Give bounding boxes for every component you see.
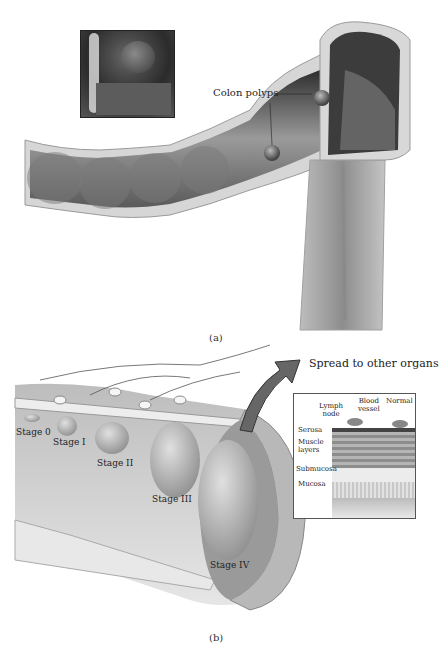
tumor-stage-1: [57, 416, 77, 436]
stage-1-label: Stage I: [53, 437, 86, 447]
stage-2-label: Stage II: [97, 458, 133, 468]
mucosa-layer: [332, 482, 415, 498]
mucosa-label: Mucosa: [298, 480, 326, 488]
wall-layers-inset: Lymph node Blood vessel Normal Serosa Mu…: [293, 393, 416, 519]
lymph-node-label: Lymph node: [319, 402, 343, 418]
blood-vessel-label: Blood vessel: [358, 397, 380, 413]
muscle-layers-label: Muscle layers: [298, 438, 328, 454]
inset-lumen: [332, 498, 415, 518]
spread-arrow-label: Spread to other organs: [309, 357, 439, 370]
tumor-stage-2: [95, 422, 129, 454]
normal-node-shape: [392, 420, 408, 428]
lymph-node-shape: [347, 418, 363, 426]
submucosa-label: Submucosa: [296, 465, 337, 473]
submucosa-layer: [332, 468, 415, 483]
muscle-layer: [332, 432, 415, 468]
tumor-stage-4: [198, 440, 258, 560]
stage-3-label: Stage III: [152, 494, 192, 504]
stage-0-label: Stage 0: [16, 427, 51, 437]
stage-4-label: Stage IV: [210, 560, 249, 570]
serosa-label: Serosa: [298, 426, 322, 434]
tumor-stage-3: [150, 422, 200, 498]
normal-label: Normal: [386, 397, 413, 405]
spread-arrow: [240, 360, 300, 432]
panel-b-caption: (b): [209, 632, 223, 643]
tumor-stage-0: [24, 414, 40, 422]
